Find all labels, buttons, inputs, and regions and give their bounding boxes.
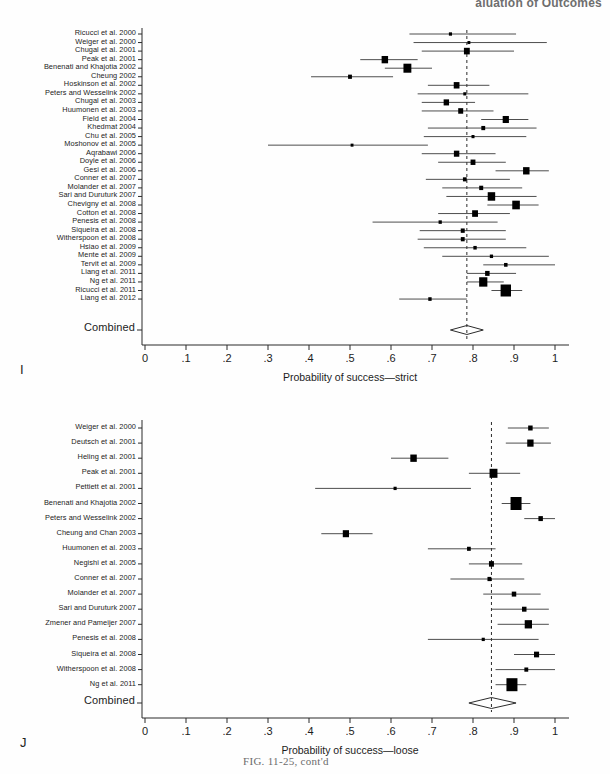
forest-row [514,652,555,658]
point-estimate-marker [511,497,522,510]
forest-row [442,255,549,258]
point-estimate-marker [479,186,483,190]
x-tick-label: .1 [166,352,206,364]
x-tick-label: 0 [125,725,165,737]
forest-row [496,667,555,671]
forest-row [467,277,504,286]
forest-row [491,285,522,297]
x-tick-label: .5 [330,352,370,364]
point-estimate-marker [394,487,397,490]
point-estimate-marker [472,135,475,138]
study-label: Huumonen et al. 2003 [62,544,136,552]
point-estimate-marker [538,516,542,521]
x-tick-label: .6 [371,725,411,737]
study-label: Molander et al. 2007 [68,589,136,597]
forest-row [428,547,496,551]
x-tick-label: 1 [535,352,575,364]
point-estimate-marker [506,678,517,691]
point-estimate-marker [503,116,509,123]
forest-row [467,271,516,276]
forest-row [422,108,494,114]
point-estimate-marker [458,108,463,114]
study-label: Sari and Duruturk 2007 [58,604,136,612]
study-label: Peak et al. 2001 [82,468,136,476]
forest-row [414,41,547,44]
study-label: Penesis et al. 2008 [72,217,136,225]
study-label: Ng et al. 2011 [90,680,136,688]
study-label: Chugal et al. 2001 [75,46,136,54]
forest-row [428,126,537,130]
study-label: Heling et al. 2001 [78,453,136,461]
point-estimate-marker [403,64,411,73]
study-label: Ng et al. 2011 [90,277,136,285]
point-estimate-marker [351,144,354,147]
forest-row [418,92,529,95]
point-estimate-marker [467,41,470,44]
forest-row [385,64,432,73]
combined-label: Combined [84,323,135,331]
forest-row [373,220,498,223]
study-label: Witherspoon et al. 2008 [57,665,136,673]
forest-row [442,186,522,190]
forest-row [498,620,549,628]
point-estimate-marker [490,469,498,478]
forest-row [524,516,555,521]
forest-row [483,263,555,267]
forest-row [438,160,506,165]
forest-row [506,440,551,447]
study-label: Cheung and Chan 2003 [57,529,137,537]
point-estimate-marker [467,547,471,551]
forest-row [450,577,524,581]
study-label: Pettiett et al. 2001 [75,483,136,491]
x-tick-label: .1 [166,725,206,737]
point-estimate-marker [479,277,487,286]
point-estimate-marker [444,99,449,105]
forest-row [469,469,520,478]
forest-row [496,167,549,174]
point-estimate-marker [463,92,466,95]
study-label: Siqueira et al. 2008 [71,650,136,658]
point-estimate-marker [481,126,485,130]
x-tick-label: 0 [125,352,165,364]
combined-diamond [469,698,516,709]
point-estimate-marker [489,561,494,567]
forest-row [420,228,506,232]
point-estimate-marker [428,297,431,301]
forest-row [508,426,549,431]
study-label: Witherspoon et al. 2008 [57,234,136,242]
point-estimate-marker [439,220,442,223]
study-label: Weiger et al. 2000 [75,423,136,431]
forest-row [426,177,510,181]
study-label: Penesis et al. 2008 [72,634,136,642]
point-estimate-marker [512,592,516,597]
x-tick-label: .8 [453,725,493,737]
x-tick-label: .7 [412,352,452,364]
x-tick-label: .4 [289,352,329,364]
forest-row [399,297,467,301]
point-estimate-marker [472,210,478,217]
forest-row [487,201,538,210]
point-estimate-marker [461,237,465,241]
forest-row [428,82,490,88]
forest-row [491,607,548,612]
figure-page: aluation of Outcomes I Ricucci et al. 20… [0,0,610,774]
x-tick-label: .7 [412,725,452,737]
study-label: Khedmat 2004 [87,123,136,131]
forest-row [446,192,536,201]
x-tick-label: .5 [330,725,370,737]
point-estimate-marker [487,577,491,581]
forest-row [469,561,522,567]
point-estimate-marker [348,75,352,79]
point-estimate-marker [482,638,485,641]
study-label: Benenati and Khajotia 2002 [44,63,136,71]
forest-row [496,678,527,691]
x-tick-label: .2 [207,725,247,737]
study-label: Negishi et al. 2005 [74,559,136,567]
forest-row [391,455,448,462]
point-estimate-marker [461,228,465,232]
point-estimate-marker [534,652,539,658]
x-tick-label: 1 [535,725,575,737]
study-label: Conner et al. 2007 [74,574,136,582]
x-tick-label: .6 [371,352,411,364]
forest-plot-loose: Weiger et al. 2000Deutsch et al. 2001Hel… [0,400,610,774]
